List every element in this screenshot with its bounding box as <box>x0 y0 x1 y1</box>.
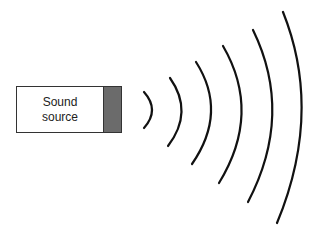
wave-arc-icon <box>168 78 182 146</box>
wave-arc-icon <box>192 62 211 164</box>
sound-waves <box>0 0 320 235</box>
wave-arc-icon <box>277 12 302 223</box>
wave-arc-icon <box>144 92 152 128</box>
wave-arc-icon <box>219 46 242 183</box>
wave-arc-icon <box>248 30 272 202</box>
